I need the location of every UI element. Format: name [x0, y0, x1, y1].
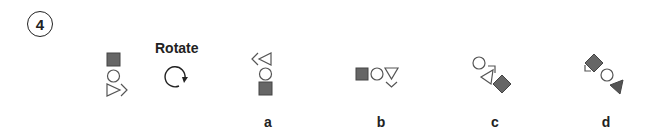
- option-d-label[interactable]: d: [596, 114, 616, 130]
- option-d-figure: [583, 52, 633, 97]
- option-a-figure: [250, 50, 290, 100]
- option-c-figure: [470, 55, 520, 100]
- option-b-figure: [355, 65, 405, 95]
- filled-square-icon: [107, 53, 120, 66]
- circle-icon: [108, 70, 120, 82]
- filled-square-icon: [259, 82, 272, 95]
- rotate-label: Rotate: [155, 40, 199, 56]
- circle-icon: [473, 57, 485, 69]
- option-b-label[interactable]: b: [371, 114, 391, 130]
- source-figure: [100, 50, 140, 100]
- chevron-icon: [121, 84, 127, 96]
- filled-diamond-icon: [493, 75, 511, 93]
- chevron-icon: [252, 53, 258, 65]
- circle-icon: [601, 69, 613, 81]
- triangle-icon: [481, 70, 493, 84]
- question-number: 4: [27, 11, 53, 37]
- triangle-icon: [385, 68, 398, 79]
- filled-diamond-icon: [585, 54, 603, 72]
- circle-icon: [260, 68, 272, 80]
- filled-triangle-icon: [610, 80, 623, 94]
- rotate-clockwise-icon: [160, 61, 192, 91]
- chevron-icon: [386, 82, 397, 87]
- filled-square-icon: [356, 68, 368, 80]
- triangle-icon: [107, 84, 120, 96]
- circle-icon: [371, 68, 383, 80]
- option-a-label[interactable]: a: [258, 114, 278, 130]
- triangle-icon: [259, 53, 271, 65]
- option-c-label[interactable]: c: [485, 114, 505, 130]
